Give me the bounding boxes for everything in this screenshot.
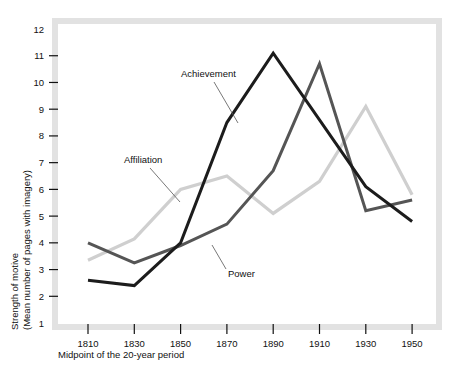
y-tick-label: 11: [34, 50, 44, 61]
x-tick-label: 1850: [170, 338, 191, 349]
y-tick-label: 5: [39, 211, 44, 222]
x-tick-label: 1890: [263, 338, 284, 349]
y-tick-label: 12: [33, 24, 44, 35]
y-axis-title: Strength of motive (Mean number of pages…: [9, 170, 32, 330]
chart-figure: 123456789101112 181018301850187018901910…: [0, 0, 458, 378]
y-tick-label: 2: [39, 291, 44, 302]
y-tick-label: 4: [39, 237, 44, 248]
series-label-affiliation: Affiliation: [124, 154, 162, 165]
x-tick-label: 1870: [216, 338, 237, 349]
x-tick-label: 1950: [402, 338, 423, 349]
y-tick-label: 9: [39, 104, 44, 115]
y-tick-label: 8: [39, 130, 44, 141]
x-axis-title: Midpoint of the 20-year period: [58, 349, 184, 360]
series-label-power: Power: [228, 268, 255, 279]
y-axis-title-line2: (Mean number of pages with imagery): [21, 170, 32, 330]
y-tick-label: 6: [39, 184, 44, 195]
x-tick-label: 1930: [355, 338, 376, 349]
y-tick-label: 1: [39, 318, 44, 329]
line-chart-canvas: 123456789101112 181018301850187018901910…: [0, 0, 458, 378]
x-tick-label: 1910: [309, 338, 330, 349]
y-axis-title-line1: Strength of motive: [9, 253, 20, 330]
y-tick-label: 7: [39, 157, 44, 168]
plot-area-background: [58, 24, 436, 324]
y-tick-label: 10: [33, 77, 44, 88]
x-tick-label: 1810: [77, 338, 98, 349]
x-tick-label: 1830: [124, 338, 145, 349]
y-tick-label: 3: [39, 264, 44, 275]
series-label-achievement: Achievement: [181, 68, 236, 79]
